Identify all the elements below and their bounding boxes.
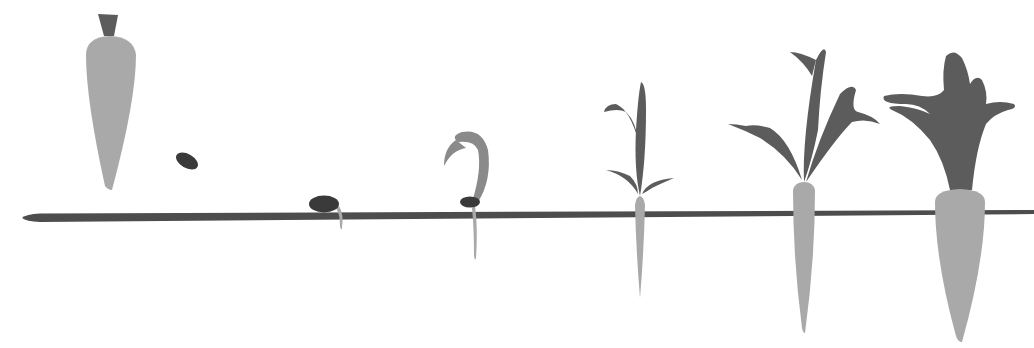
cotyledon-icon — [455, 131, 489, 202]
stage-young-carrot: Young carrot — [728, 49, 880, 333]
leaf-icon — [790, 52, 816, 76]
taproot-icon — [635, 196, 645, 298]
carrot-root-icon — [86, 36, 136, 190]
carrot-root-icon — [793, 182, 815, 333]
leaf-icon — [604, 104, 638, 140]
leaf-icon — [606, 170, 638, 194]
leaf-icon — [642, 178, 674, 194]
stage-seed: Seed — [173, 149, 201, 173]
stage-mature-carrot: Mature carrot — [883, 52, 1015, 342]
leaf-icon — [636, 82, 647, 196]
stage-seedling: Seedling with true leaves — [604, 82, 674, 298]
seed-icon — [309, 196, 339, 213]
leaf-cluster-icon — [883, 52, 1015, 190]
carrot-top-icon — [98, 14, 118, 36]
stage-germination: Germinating seedling — [444, 131, 489, 259]
carrot-growth-diagram: Carrot growth stages Carrot Seed Planted… — [0, 0, 1034, 348]
carrot-root-icon — [935, 189, 985, 342]
leaf-icon — [728, 124, 802, 180]
seed-coat-icon — [460, 197, 480, 208]
ground-line — [22, 210, 1034, 222]
stage-mature-carrot-reference: Carrot — [86, 14, 136, 190]
cotyledon-icon — [444, 140, 466, 166]
seed-icon — [173, 149, 201, 173]
